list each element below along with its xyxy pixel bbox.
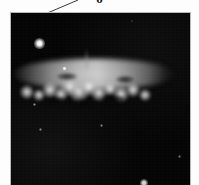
astronomy-photo [10, 12, 191, 185]
scan-noise-overlay [11, 13, 190, 185]
cropped-label-glyph: o [92, 0, 107, 4]
figure-page: o [0, 0, 199, 185]
